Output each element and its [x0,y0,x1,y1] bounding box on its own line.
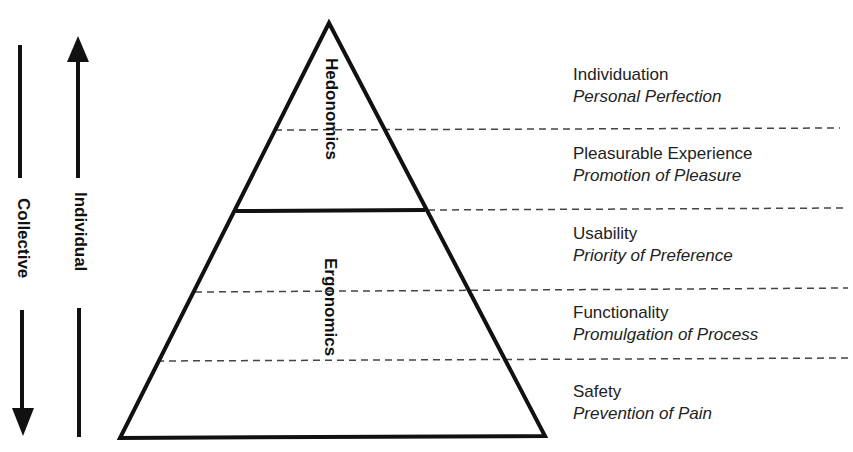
level-pleasurable-experience: Pleasurable Experience Promotion of Plea… [573,143,753,187]
level-title: Pleasurable Experience [573,143,753,165]
level-title: Individuation [573,64,721,86]
level-safety: Safety Prevention of Pain [573,381,712,425]
level-usability: Usability Priority of Preference [573,223,733,267]
level-subtitle: Promulgation of Process [573,324,758,346]
level-title: Safety [573,381,712,403]
level-functionality: Functionality Promulgation of Process [573,302,758,346]
level-subtitle: Promotion of Pleasure [573,165,753,187]
level-subtitle: Prevention of Pain [573,403,712,425]
level-subtitle: Priority of Preference [573,245,733,267]
hedonomics-label: Hedonomics [321,58,341,160]
level-individuation: Individuation Personal Perfection [573,64,721,108]
collective-label: Collective [13,198,33,278]
level-title: Usability [573,223,733,245]
level-title: Functionality [573,302,758,324]
ergonomics-label: Ergonomics [320,258,340,356]
hedonomics-ergonomics-boundary [236,210,425,211]
level-subtitle: Personal Perfection [573,86,721,108]
individual-label: Individual [70,192,90,271]
